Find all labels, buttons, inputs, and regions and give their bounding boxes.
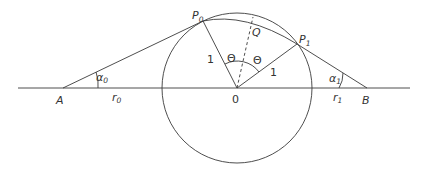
label-p0: P0 (192, 9, 204, 24)
label-alpha1: α1 (329, 72, 341, 86)
label-a: A (55, 94, 64, 107)
radius-o-p1 (237, 44, 297, 88)
label-theta-right: Θ (253, 54, 262, 67)
line-a-p0 (63, 21, 203, 88)
label-alpha0: α0 (96, 71, 108, 85)
label-r0: r0 (112, 91, 122, 105)
label-radius-right: 1 (270, 66, 277, 79)
label-o: 0 (232, 93, 239, 106)
label-r1: r1 (333, 91, 342, 105)
geometry-diagram: A B 0 P0 P1 Q 1 1 Θ Θ α0 α1 r0 r1 (0, 0, 423, 170)
bisector-o-q (237, 17, 253, 88)
label-radius-left: 1 (207, 53, 214, 66)
label-p1: P1 (299, 33, 310, 48)
label-b: B (362, 94, 370, 107)
label-q: Q (252, 26, 261, 39)
label-theta-left: Θ (227, 52, 236, 65)
